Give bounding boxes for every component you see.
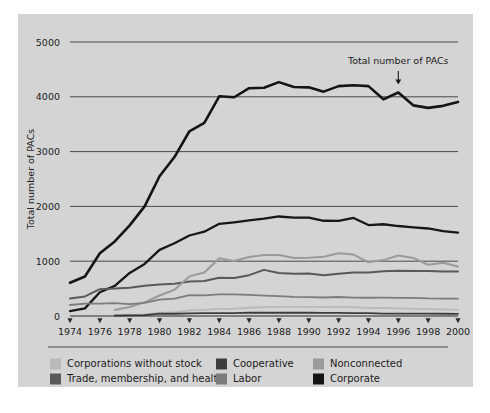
- x-axis: [67, 316, 460, 323]
- legend-swatch-nonconnected: [313, 359, 324, 370]
- x-axis-tick-marker: [455, 318, 460, 323]
- legend-item-corporate: Corporate: [313, 373, 380, 385]
- y-axis-tick-labels: 010002000300040005000: [36, 37, 60, 322]
- chart-panel: 010002000300040005000 Total number of PA…: [18, 14, 473, 387]
- legend-label-corporations-without-stock: Corporations without stock: [67, 358, 202, 369]
- x-axis-tick-marker: [396, 318, 401, 323]
- legend-label-corporate: Corporate: [330, 373, 380, 384]
- series-line-nonconnected: [115, 253, 458, 310]
- legend-label-nonconnected: Nonconnected: [330, 358, 402, 369]
- x-axis-tick-marker: [217, 318, 222, 323]
- legend-item-cooperative: Cooperative: [216, 358, 294, 370]
- y-axis-tick-label: 2000: [36, 201, 60, 212]
- y-axis-tick-label: 1000: [36, 256, 60, 267]
- legend-label-trade-membership-and-health: Trade, membership, and health: [66, 373, 224, 384]
- chart-annotation: Total number of PACs: [347, 55, 449, 85]
- x-axis-tick-label: 1980: [147, 326, 171, 337]
- x-axis-tick-label: 1984: [207, 326, 231, 337]
- x-axis-tick-label: 1998: [416, 326, 440, 337]
- x-axis-tick-label: 1978: [118, 326, 142, 337]
- legend-swatch-trade-membership-and-health: [50, 374, 61, 385]
- x-axis-tick-marker: [97, 318, 102, 323]
- x-axis-tick-marker: [366, 318, 371, 323]
- y-axis-tick-label: 4000: [36, 91, 60, 102]
- x-axis-tick-marker: [187, 318, 192, 323]
- annotation-arrow-head: [395, 80, 401, 85]
- data-series: [70, 82, 458, 315]
- legend-swatch-labor: [216, 374, 227, 385]
- y-axis-tick-label: 0: [54, 311, 60, 322]
- x-axis-tick-marker: [246, 318, 251, 323]
- x-axis-tick-label: 2000: [446, 326, 470, 337]
- x-axis-tick-label: 1986: [237, 326, 261, 337]
- y-axis-title: Total number of PACs: [25, 129, 36, 231]
- x-axis-tick-marker: [276, 318, 281, 323]
- y-axis-tick-label: 5000: [36, 37, 60, 48]
- legend-item-nonconnected: Nonconnected: [313, 358, 402, 370]
- x-axis-tick-marker: [426, 318, 431, 323]
- legend-label-cooperative: Cooperative: [233, 358, 294, 369]
- figure-container: 010002000300040005000 Total number of PA…: [0, 0, 490, 413]
- legend-label-labor: Labor: [233, 373, 262, 384]
- x-axis-tick-label: 1974: [58, 326, 82, 337]
- x-axis-tick-label: 1990: [297, 326, 321, 337]
- series-line-labor: [70, 294, 458, 305]
- series-line-cooperative: [115, 313, 458, 316]
- y-axis-title-label: Total number of PACs: [25, 129, 36, 231]
- legend-item-trade-membership-and-health: Trade, membership, and health: [50, 373, 224, 385]
- legend-item-corporations-without-stock: Corporations without stock: [50, 358, 202, 370]
- annotation-text: Total number of PACs: [347, 55, 449, 66]
- x-axis-tick-label: 1992: [327, 326, 351, 337]
- series-line-total-number-of-pacs: [70, 82, 458, 283]
- x-axis-tick-marker: [306, 318, 311, 323]
- y-axis-tick-label: 3000: [36, 146, 60, 157]
- x-axis-tick-label: 1996: [386, 326, 410, 337]
- x-axis-tick-labels: 1974197619781980198219841986198819901992…: [58, 326, 470, 337]
- pac-growth-line-chart: 010002000300040005000 Total number of PA…: [18, 14, 473, 387]
- legend-swatch-corporations-without-stock: [50, 359, 61, 370]
- x-axis-tick-label: 1988: [267, 326, 291, 337]
- x-axis-tick-label: 1976: [88, 326, 112, 337]
- x-axis-tick-marker: [67, 318, 72, 323]
- x-axis-tick-label: 1994: [356, 326, 380, 337]
- chart-legend: Corporations without stockTrade, members…: [50, 358, 402, 385]
- x-axis-tick-marker: [157, 318, 162, 323]
- legend-item-labor: Labor: [216, 373, 262, 385]
- x-axis-tick-marker: [336, 318, 341, 323]
- legend-swatch-cooperative: [216, 359, 227, 370]
- x-axis-tick-label: 1982: [177, 326, 201, 337]
- x-axis-tick-marker: [127, 318, 132, 323]
- legend-swatch-corporate: [313, 374, 324, 385]
